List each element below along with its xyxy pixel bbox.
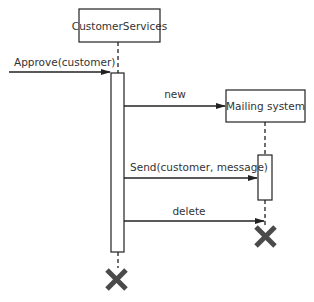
message-approve: Approve(customer) [9, 56, 115, 72]
sequence-diagram: CustomerServices Mailing system Approve(… [0, 0, 314, 302]
message-delete: delete [124, 205, 264, 221]
message-send-label: Send(customer, message) [130, 161, 268, 173]
mailing-system-label: Mailing system [226, 100, 305, 112]
destroy-x-icon [256, 227, 275, 246]
customer-services-activation [111, 73, 124, 252]
message-new-label: new [164, 88, 186, 100]
customer-services-label: CustomerServices [72, 20, 167, 32]
message-send: Send(customer, message) [124, 161, 268, 178]
message-delete-label: delete [172, 205, 205, 217]
destroy-x-icon [107, 270, 126, 289]
message-approve-label: Approve(customer) [14, 56, 115, 68]
lifeline-customer-services: CustomerServices [72, 9, 167, 289]
message-new: new [124, 88, 225, 106]
